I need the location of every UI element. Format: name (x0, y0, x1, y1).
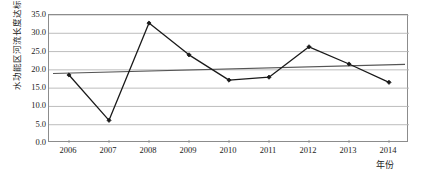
y-axis-tick-label: 15.0 (16, 83, 46, 92)
x-axis-tick-label: 2009 (168, 145, 208, 156)
y-axis-tick-labels: 0.05.010.015.020.025.030.035.0 (16, 14, 46, 142)
y-axis-tick-label: 0.0 (16, 138, 46, 147)
x-axis-tick-label: 2012 (288, 145, 328, 156)
x-axis-tick-label: 2013 (328, 145, 368, 156)
x-axis-tick-label: 2007 (88, 145, 128, 156)
y-axis-tick-label: 10.0 (16, 101, 46, 110)
x-axis-tick-label: 2008 (128, 145, 168, 156)
chart-title (70, 0, 370, 6)
y-axis-tick-label: 5.0 (16, 119, 46, 128)
x-axis-tick-label: 2014 (368, 145, 408, 156)
x-axis-tick-label: 2010 (208, 145, 248, 156)
x-axis-tick-label: 2011 (248, 145, 288, 156)
chart-plot-svg (49, 15, 409, 143)
plot-area (48, 14, 408, 142)
data-point-marker (387, 80, 391, 84)
x-axis-title: 年份 (376, 160, 394, 171)
chart-figure: 水功能区河流长度达标率/% 0.05.010.015.020.025.030.0… (0, 0, 430, 179)
y-axis-tick-label: 35.0 (16, 10, 46, 19)
y-axis-tick-label: 25.0 (16, 46, 46, 55)
x-axis-tick-label: 2006 (48, 145, 88, 156)
y-axis-tick-label: 30.0 (16, 28, 46, 37)
x-axis-tick-labels: 200620072008200920102011201220132014 (48, 145, 408, 157)
y-axis-tick-label: 20.0 (16, 64, 46, 73)
